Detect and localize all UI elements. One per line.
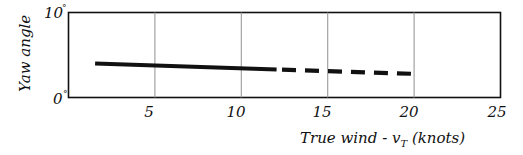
series-line-dashed	[282, 70, 415, 74]
chart-canvas: 10 ° 0 ° 5 10 15 20 25 True wind - vT (k…	[0, 0, 523, 155]
x-tick-label-10: 10	[226, 103, 246, 121]
x-tick-label-15: 15	[312, 103, 331, 121]
x-axis-tick-labels: 5 10 15 20 25	[144, 103, 506, 121]
y-tick-degree-bottom: °	[63, 89, 68, 99]
gridlines-vertical	[155, 13, 414, 98]
y-tick-label-top: 10	[44, 4, 64, 22]
y-axis-title: Yaw angle	[16, 15, 34, 92]
y-axis-label: Yaw angle	[16, 15, 34, 92]
x-tick-label-5: 5	[144, 103, 154, 121]
x-axis-label-units: (knots)	[407, 129, 465, 147]
data-series-group	[95, 64, 415, 74]
x-axis-label-group: True wind - vT (knots)	[300, 129, 465, 149]
x-tick-label-20: 20	[398, 103, 419, 121]
x-axis-title: True wind - vT (knots)	[300, 129, 465, 149]
x-axis-label-main: True wind - v	[300, 129, 401, 147]
y-tick-label-bottom: 0	[53, 90, 63, 108]
series-line-solid	[95, 64, 277, 70]
x-tick-label-25: 25	[486, 103, 506, 121]
plot-frame	[69, 13, 501, 98]
plot-frame-rect	[69, 13, 501, 98]
y-tick-degree-top: °	[62, 3, 67, 13]
chart-figure: 10 ° 0 ° 5 10 15 20 25 True wind - vT (k…	[0, 0, 523, 155]
y-axis-tick-labels: 10 ° 0 °	[44, 3, 68, 108]
